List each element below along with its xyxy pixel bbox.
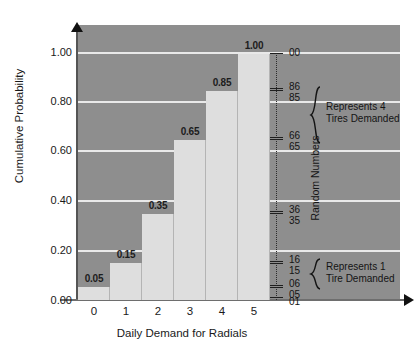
- random-tick-66: [270, 137, 283, 138]
- random-tick-86: [270, 88, 283, 89]
- x-tick-label-3: 3: [175, 305, 205, 317]
- y-axis-arrowhead-icon: [71, 22, 83, 32]
- random-tick-65: [270, 139, 283, 140]
- bar-1[interactable]: [110, 263, 142, 300]
- annotation-4-tires-line2: Tires Demanded: [326, 113, 400, 125]
- bar-0[interactable]: [78, 287, 110, 300]
- annotation-4-tires-line1: Represents 4: [326, 101, 400, 113]
- y-tick-label-0.80: 0.80: [32, 95, 72, 107]
- annotation-1-tire-line2: Tire Demanded: [326, 273, 395, 285]
- bar-value-label-0: 0.05: [76, 273, 112, 284]
- annotation-4-tires: Represents 4 Tires Demanded: [326, 101, 400, 125]
- bar-value-label-5: 1.00: [236, 40, 272, 51]
- y-tick-label-0.60: 0.60: [32, 144, 72, 156]
- random-number-label-06: 06: [289, 278, 300, 289]
- x-tick-label-2: 2: [143, 305, 173, 317]
- y-tick-label-0.00: 0.00: [32, 294, 72, 306]
- random-tick-06: [270, 285, 283, 286]
- random-tick-01: [270, 297, 283, 298]
- x-tick-label-4: 4: [207, 305, 237, 317]
- x-tick-label-1: 1: [111, 305, 141, 317]
- random-number-label-65: 65: [289, 141, 300, 152]
- random-tick-36: [270, 211, 283, 212]
- random-number-label-36: 36: [289, 204, 300, 215]
- annotation-1-tire: Represents 1 Tire Demanded: [326, 261, 395, 285]
- random-tick-85: [270, 90, 283, 91]
- random-number-label-85: 85: [289, 92, 300, 103]
- random-tick-35: [270, 213, 283, 214]
- x-axis-arrowhead-icon: [404, 294, 414, 306]
- y-tick-label-0.20: 0.20: [32, 244, 72, 256]
- bar-value-label-1: 0.15: [108, 249, 144, 260]
- random-number-label-15: 15: [289, 265, 300, 276]
- x-tick-label-5: 5: [239, 305, 269, 317]
- random-number-label-01: 01: [289, 296, 300, 307]
- random-number-axis-title: Random Numbers: [309, 133, 321, 223]
- bar-4[interactable]: [206, 91, 238, 300]
- random-number-label-35: 35: [289, 215, 300, 226]
- y-axis-line: [76, 30, 78, 301]
- x-axis-title: Daily Demand for Radials: [77, 327, 287, 339]
- brace-4-tires-icon: [309, 86, 323, 144]
- bar-3[interactable]: [174, 140, 206, 300]
- random-number-label-66: 66: [289, 130, 300, 141]
- x-tick-label-0: 0: [79, 305, 109, 317]
- bar-2[interactable]: [142, 214, 174, 300]
- random-tick-15: [270, 263, 283, 264]
- bar-value-label-3: 0.65: [172, 126, 208, 137]
- y-tick-label-1.00: 1.00: [32, 46, 72, 58]
- random-number-label-86: 86: [289, 81, 300, 92]
- y-axis-title: Cumulative Probability: [13, 31, 25, 221]
- y-tick-label-0.40: 0.40: [32, 194, 72, 206]
- random-tick-05: [270, 287, 283, 288]
- random-number-label-16: 16: [289, 254, 300, 265]
- random-tick-00: [270, 53, 283, 54]
- bar-5[interactable]: [238, 54, 270, 300]
- chart-figure: 0.05 0.15 0.35 0.65 0.85 1.00 0.00 0.20 …: [0, 0, 419, 350]
- random-tick-16: [270, 261, 283, 262]
- brace-1-tire-icon: [309, 258, 323, 290]
- bar-value-label-2: 0.35: [140, 200, 176, 211]
- random-number-label-00: 00: [289, 47, 300, 58]
- annotation-1-tire-line1: Represents 1: [326, 261, 395, 273]
- bar-value-label-4: 0.85: [204, 77, 240, 88]
